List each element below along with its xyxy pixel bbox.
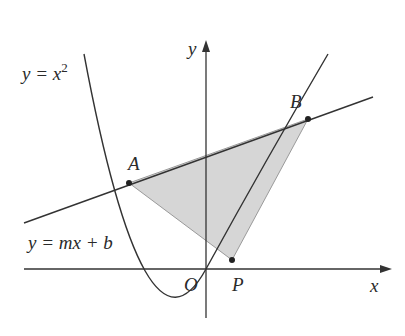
- x-axis-label: x: [369, 275, 379, 296]
- parabola-label: y = x2: [20, 60, 68, 84]
- point-a-label: A: [126, 153, 140, 174]
- line-label: y = mx + b: [26, 232, 113, 253]
- y-axis-label: y: [186, 38, 197, 59]
- point-p-dot: [229, 257, 235, 263]
- point-p-label: P: [231, 274, 244, 295]
- point-a-dot: [126, 180, 132, 186]
- point-b-dot: [305, 116, 311, 122]
- triangle-abp: [129, 119, 308, 260]
- y-axis-arrow-icon: [202, 40, 210, 52]
- x-axis-arrow-icon: [380, 265, 392, 273]
- diagram-canvas: y = x2 y = mx + b y x O A B P: [0, 0, 405, 336]
- origin-label: O: [184, 274, 198, 295]
- point-b-label: B: [290, 91, 302, 112]
